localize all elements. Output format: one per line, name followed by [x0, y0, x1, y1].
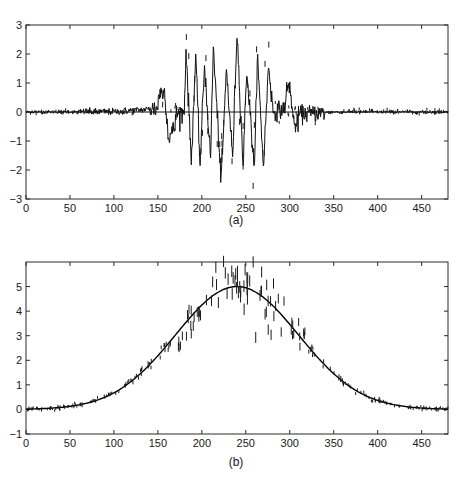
y-tick-label: −3 — [9, 193, 22, 205]
y-tick-label: 5 — [16, 281, 22, 293]
x-tick-label: 50 — [64, 202, 76, 214]
x-tick-label: 100 — [105, 437, 123, 449]
panel-b: 050100150200250300350400450−1012345 — [9, 256, 448, 449]
x-tick-label: 350 — [325, 437, 343, 449]
y-tick-label: −1 — [9, 428, 22, 440]
x-tick-label: 450 — [412, 202, 430, 214]
x-tick-label: 100 — [105, 202, 123, 214]
series-gaussian-fit — [26, 287, 448, 410]
y-tick-label: 1 — [16, 379, 22, 391]
x-tick-label: 350 — [325, 202, 343, 214]
chart-canvas: 050100150200250300350400450−3−2−10123 05… — [0, 0, 464, 484]
y-tick-label: 3 — [16, 19, 22, 31]
y-tick-label: 4 — [16, 305, 22, 317]
y-tick-label: 3 — [16, 330, 22, 342]
x-tick-label: 300 — [281, 437, 299, 449]
panel-a: 050100150200250300350400450−3−2−10123 — [9, 19, 448, 214]
x-tick-label: 0 — [23, 437, 29, 449]
y-tick-label: −2 — [9, 164, 22, 176]
y-tick-label: 0 — [16, 403, 22, 415]
x-tick-label: 50 — [64, 437, 76, 449]
y-tick-label: 2 — [16, 354, 22, 366]
x-tick-label: 400 — [368, 437, 386, 449]
y-tick-label: −1 — [9, 135, 22, 147]
y-tick-label: 0 — [16, 106, 22, 118]
x-tick-label: 150 — [149, 437, 167, 449]
x-tick-label: 300 — [281, 202, 299, 214]
x-tick-label: 450 — [412, 437, 430, 449]
x-tick-label: 200 — [193, 437, 211, 449]
x-tick-label: 200 — [193, 202, 211, 214]
x-tick-label: 0 — [23, 202, 29, 214]
x-tick-label: 150 — [149, 202, 167, 214]
x-tick-label: 400 — [368, 202, 386, 214]
figure: 050100150200250300350400450−3−2−10123 05… — [0, 0, 464, 484]
x-tick-label: 250 — [237, 437, 255, 449]
y-tick-label: 1 — [16, 77, 22, 89]
x-tick-label: 250 — [237, 202, 255, 214]
y-tick-label: 2 — [16, 48, 22, 60]
